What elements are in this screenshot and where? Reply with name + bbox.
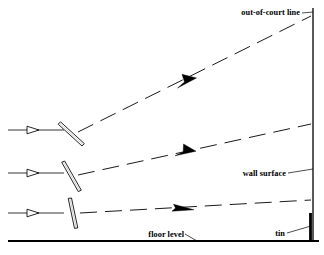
annotation-labels: out-of-court line wall surface tin floor… [148,8,300,239]
leader-lines [185,12,313,241]
racket-high-lob [58,122,84,146]
leader-tin [287,226,311,233]
outgoing-trajectory-low [80,200,311,213]
leader-out-of-court-line [302,12,313,13]
shot-high-lob [8,16,311,146]
label-out-of-court-line: out-of-court line [241,8,300,17]
incoming-arrowhead-low [27,209,39,217]
incoming-arrowhead-high [27,126,39,134]
trajectory-arrowhead-mid [175,144,196,156]
label-floor-level: floor level [148,230,184,239]
leader-wall-surface [288,169,313,173]
shot-low-kill [8,198,311,228]
racket-low-kill [68,198,78,228]
shot-mid-drive [8,124,311,192]
outgoing-trajectory-mid [78,124,311,175]
racket-mid-drive [62,161,82,192]
court-structure [8,8,319,241]
trajectory-arrowhead-low [172,204,194,211]
incoming-arrowhead-mid [27,169,39,177]
outgoing-trajectory-high [78,16,311,132]
label-tin: tin [275,229,285,238]
figure-canvas: out-of-court line wall surface tin floor… [0,0,324,255]
squash-trajectory-diagram: out-of-court line wall surface tin floor… [0,0,324,255]
label-wall-surface: wall surface [243,169,286,178]
